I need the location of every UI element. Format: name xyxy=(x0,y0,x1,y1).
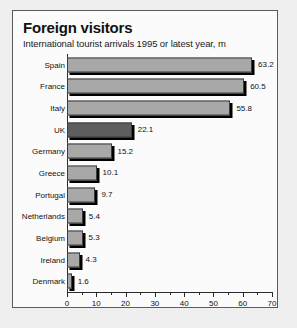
chart-title: Foreign visitors xyxy=(23,19,132,36)
bar-category-label: Denmark xyxy=(33,277,65,286)
x-tick-label: 40 xyxy=(180,299,189,308)
plot-area: Spain63.2France60.5Italy55.8UK22.1German… xyxy=(13,54,279,306)
chart-panel: Foreign visitors International tourist a… xyxy=(12,10,278,308)
bar xyxy=(67,165,97,180)
x-tick-label: 60 xyxy=(238,299,247,308)
bar-category-label: Ireland xyxy=(41,255,65,264)
bar-value-label: 60.5 xyxy=(250,82,266,91)
bar-row: Spain63.2 xyxy=(13,54,279,76)
x-tick-minor xyxy=(170,292,171,295)
bar xyxy=(67,274,72,289)
bar xyxy=(67,230,83,245)
x-tick-label: 0 xyxy=(65,299,69,308)
bar-category-label: Netherlands xyxy=(22,212,65,221)
x-tick-major xyxy=(184,292,185,297)
bar-row: Portugal9.7 xyxy=(13,184,279,206)
bar xyxy=(67,122,132,137)
bar-value-label: 22.1 xyxy=(138,125,154,134)
bar-category-label: UK xyxy=(54,125,65,134)
bar-category-label: Germany xyxy=(32,147,65,156)
bar-value-label: 4.3 xyxy=(86,255,97,264)
bar-row: Denmark1.6 xyxy=(13,270,279,292)
bar-category-label: Portugal xyxy=(35,190,65,199)
x-tick-major xyxy=(126,292,127,297)
bar-value-label: 5.4 xyxy=(89,212,100,221)
bar xyxy=(67,187,95,202)
x-tick-major xyxy=(96,292,97,297)
bar-category-label: France xyxy=(40,82,65,91)
bar-category-label: Italy xyxy=(50,104,65,113)
bar-row: Ireland4.3 xyxy=(13,249,279,271)
x-tick-minor xyxy=(228,292,229,295)
bar-value-label: 63.2 xyxy=(258,60,274,69)
x-tick-minor xyxy=(199,292,200,295)
bar-category-label: Belgium xyxy=(36,233,65,242)
bar xyxy=(67,79,244,94)
x-tick-major xyxy=(67,292,68,297)
bar-value-label: 9.7 xyxy=(101,190,112,199)
bar xyxy=(67,57,252,72)
bar-category-label: Greece xyxy=(39,168,65,177)
bar xyxy=(67,209,83,224)
bar xyxy=(67,144,112,159)
x-tick-minor xyxy=(140,292,141,295)
bar-row: Belgium5.3 xyxy=(13,227,279,249)
bar-value-label: 1.6 xyxy=(78,277,89,286)
bar-row: France60.5 xyxy=(13,76,279,98)
x-tick-major xyxy=(213,292,214,297)
bar-category-label: Spain xyxy=(45,60,65,69)
x-tick-major xyxy=(155,292,156,297)
bar xyxy=(67,101,230,116)
bar-row: Greece10.1 xyxy=(13,162,279,184)
bar-value-label: 15.2 xyxy=(118,147,134,156)
chart-subtitle: International tourist arrivals 1995 or l… xyxy=(23,38,226,49)
x-tick-label: 10 xyxy=(92,299,101,308)
bar-row: Italy55.8 xyxy=(13,97,279,119)
bar-value-label: 5.3 xyxy=(89,233,100,242)
bar-row: UK22.1 xyxy=(13,119,279,141)
x-tick-major xyxy=(243,292,244,297)
bar-row: Germany15.2 xyxy=(13,141,279,163)
x-tick-label: 20 xyxy=(121,299,130,308)
x-tick-major xyxy=(272,292,273,297)
x-tick-minor xyxy=(257,292,258,295)
x-tick-minor xyxy=(111,292,112,295)
x-tick-minor xyxy=(82,292,83,295)
x-tick-label: 70 xyxy=(268,299,277,308)
bar-value-label: 10.1 xyxy=(103,168,119,177)
bar xyxy=(67,252,80,267)
bar-row: Netherlands5.4 xyxy=(13,205,279,227)
x-tick-label: 30 xyxy=(150,299,159,308)
bar-value-label: 55.8 xyxy=(236,104,252,113)
x-tick-label: 50 xyxy=(209,299,218,308)
